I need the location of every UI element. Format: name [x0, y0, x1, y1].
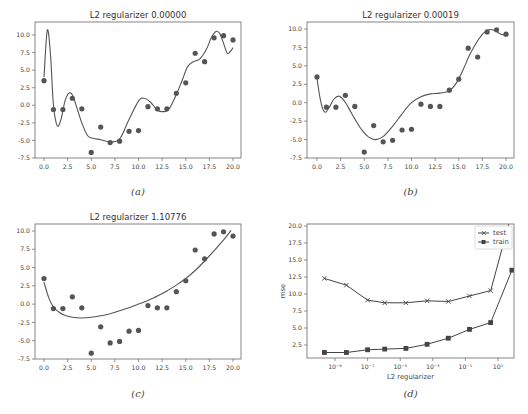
- data-point: [89, 150, 94, 155]
- data-point: [221, 33, 226, 38]
- train-marker: [467, 327, 472, 332]
- data-point: [475, 54, 480, 59]
- data-point: [98, 324, 103, 329]
- x-tick-label: 12.5: [155, 364, 169, 371]
- y-tick-label: -5.0: [290, 136, 302, 143]
- data-point: [174, 91, 179, 96]
- x-tick-label: 17.5: [475, 163, 489, 170]
- x-tick-label: 2.5: [63, 163, 73, 170]
- train-marker: [488, 320, 493, 325]
- data-point: [212, 231, 217, 236]
- x-tick-label: 10⁻⁷: [361, 363, 375, 370]
- data-point: [381, 139, 386, 144]
- x-tick-label: 5.0: [86, 364, 96, 371]
- x-tick-label: 15.0: [452, 163, 466, 170]
- data-point: [193, 247, 198, 252]
- y-tick-label: -5.0: [18, 137, 30, 144]
- data-point: [183, 80, 188, 85]
- y-tick-label: 0.0: [20, 101, 30, 108]
- x-tick-label: 0.0: [39, 163, 49, 170]
- chart-title: L2 regularizer 1.10776: [90, 212, 187, 222]
- y-tick-label: -5.0: [18, 337, 30, 344]
- x-tick-label: 10⁻⁵: [393, 363, 407, 370]
- data-point: [324, 105, 329, 110]
- train-marker: [509, 268, 514, 273]
- data-point: [352, 104, 357, 109]
- x-tick-label: 2.5: [63, 364, 73, 371]
- data-point: [60, 107, 65, 112]
- data-point: [79, 305, 84, 310]
- data-point: [164, 305, 169, 310]
- data-point: [437, 104, 442, 109]
- data-point: [164, 106, 169, 111]
- y-tick-label: 10.0: [16, 227, 30, 234]
- data-point: [126, 329, 131, 334]
- y-tick-label: 10.0: [288, 290, 302, 297]
- data-point: [485, 29, 490, 34]
- data-point: [418, 102, 423, 107]
- x-tick-label: 7.5: [110, 163, 120, 170]
- train-marker: [446, 336, 451, 341]
- data-point: [428, 104, 433, 109]
- y-tick-label: 10.0: [16, 31, 30, 38]
- y-tick-label: -7.5: [18, 154, 30, 161]
- y-tick-label: 5.0: [292, 62, 302, 69]
- x-tick-label: 0.0: [39, 364, 49, 371]
- subfigure-caption: (c): [131, 388, 145, 399]
- figure-canvas: L2 regularizer 0.00000-7.5-5.0-2.50.02.5…: [0, 0, 528, 414]
- data-point: [212, 35, 217, 40]
- data-point: [145, 104, 150, 109]
- data-point: [98, 124, 103, 129]
- y-tick-label: 7.5: [20, 49, 30, 56]
- x-tick-label: 15.0: [179, 163, 193, 170]
- y-tick-label: 12.5: [288, 273, 302, 280]
- y-axis-label: mse: [279, 284, 287, 298]
- y-tick-label: -2.5: [18, 119, 30, 126]
- y-tick-label: -2.5: [18, 319, 30, 326]
- axes-frame: [307, 22, 514, 158]
- y-tick-label: 2.5: [292, 80, 302, 87]
- y-tick-label: 7.5: [20, 245, 30, 252]
- x-tick-label: 7.5: [110, 364, 120, 371]
- y-tick-label: 7.5: [292, 44, 302, 51]
- y-tick-label: 0.0: [20, 300, 30, 307]
- data-point: [51, 306, 56, 311]
- data-point: [399, 127, 404, 132]
- y-tick-label: -7.5: [18, 355, 30, 362]
- data-point: [108, 340, 113, 345]
- x-tick-label: 0.0: [312, 163, 322, 170]
- y-tick-label: 17.5: [288, 239, 302, 246]
- y-tick-label: -7.5: [290, 154, 302, 161]
- data-point: [79, 106, 84, 111]
- chart-title: L2 regularizer 0.00000: [90, 10, 187, 20]
- data-point: [41, 78, 46, 83]
- legend-entry-test: test: [493, 229, 506, 237]
- x-tick-label: 10.0: [132, 163, 146, 170]
- axes-frame: [35, 22, 241, 158]
- data-point: [117, 339, 122, 344]
- x-tick-label: 2.5: [336, 163, 346, 170]
- x-tick-label: 12.5: [428, 163, 442, 170]
- data-point: [126, 129, 131, 134]
- data-point: [117, 139, 122, 144]
- data-point: [202, 256, 207, 261]
- x-tick-label: 12.5: [155, 163, 169, 170]
- chart-d: 2.55.07.510.012.515.017.520.010⁻⁹10⁻⁷10⁻…: [279, 210, 514, 399]
- data-point: [145, 303, 150, 308]
- x-tick-label: 10.0: [405, 163, 419, 170]
- x-tick-label: 10⁻³: [426, 363, 440, 370]
- data-point: [70, 96, 75, 101]
- axes-frame: [35, 224, 241, 359]
- data-point: [371, 123, 376, 128]
- data-point: [51, 107, 56, 112]
- x-tick-label: 20.0: [226, 364, 240, 371]
- fit-curve: [44, 30, 233, 142]
- legend: testtrain: [475, 226, 512, 249]
- data-point: [494, 27, 499, 32]
- train-marker: [365, 347, 370, 352]
- y-tick-label: 2.5: [20, 282, 30, 289]
- subfigure-caption: (a): [131, 186, 145, 197]
- x-tick-label: 7.5: [383, 163, 393, 170]
- x-tick-label: 10.0: [132, 364, 146, 371]
- data-point: [136, 128, 141, 133]
